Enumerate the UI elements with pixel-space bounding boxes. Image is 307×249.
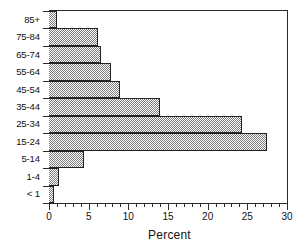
bar-row — [49, 81, 287, 98]
x-axis-tick-minor — [231, 204, 232, 207]
y-axis-tick — [43, 186, 49, 187]
x-axis-tick-major — [168, 204, 169, 210]
x-axis-tick-major — [89, 204, 90, 210]
y-axis-tick-label: 15-24 — [16, 137, 40, 147]
bar-row — [49, 46, 287, 63]
x-axis-tick-minor — [255, 204, 256, 207]
bars-layer — [49, 11, 287, 203]
x-axis-tick-minor — [73, 204, 74, 207]
scan-artifact — [220, 121, 232, 128]
bar-row — [49, 133, 287, 150]
x-axis-tick-minor — [120, 204, 121, 207]
x-axis-title-label: Percent — [148, 228, 191, 242]
bar-row — [49, 28, 287, 45]
x-axis-tick-label: 20 — [196, 211, 220, 222]
bar-1-4 — [49, 168, 59, 185]
x-axis-tick-label: 25 — [235, 211, 259, 222]
x-axis-tick-minor — [200, 204, 201, 207]
bar-row — [49, 168, 287, 185]
y-axis-tick — [43, 116, 49, 117]
bar-35-44 — [49, 98, 160, 115]
x-axis-tick-label: 30 — [275, 211, 299, 222]
y-axis-tick — [43, 63, 49, 64]
y-axis-tick-label: 65-74 — [16, 50, 40, 60]
bar-15-24 — [49, 133, 267, 150]
x-axis-tick-minor — [271, 204, 272, 207]
y-axis-tick-label: 45-54 — [16, 85, 40, 95]
x-axis-tick-minor — [112, 204, 113, 207]
x-axis-tick-minor — [263, 204, 264, 207]
y-axis-tick — [43, 133, 49, 134]
x-axis-tick-minor — [279, 204, 280, 207]
y-axis-tick — [43, 151, 49, 152]
x-axis-tick-minor — [97, 204, 98, 207]
y-axis-tick-label: 5-14 — [21, 154, 40, 164]
y-axis-tick-label: 25-34 — [16, 119, 40, 129]
y-axis-tick-label: 55-64 — [16, 67, 40, 77]
y-axis-tick — [43, 11, 49, 12]
x-axis-tick-major — [247, 204, 248, 210]
bar-65-74 — [49, 46, 101, 63]
y-axis-tick-label: 75-84 — [16, 32, 40, 42]
x-axis-tick-label: 15 — [156, 211, 180, 222]
y-axis-tick-label: 1-4 — [27, 172, 40, 182]
bar-45-54 — [49, 81, 120, 98]
y-axis-tick-label: 85+ — [24, 15, 40, 25]
y-axis-tick-label: 35-44 — [16, 102, 40, 112]
y-axis: 85+75-8465-7455-6445-5435-4425-3415-245-… — [0, 11, 47, 203]
x-axis-tick-major — [128, 204, 129, 210]
y-axis-tick — [43, 98, 49, 99]
bar-5-14 — [49, 151, 84, 168]
x-axis-tick-minor — [136, 204, 137, 207]
bar-55-64 — [49, 63, 111, 80]
x-axis-tick-minor — [57, 204, 58, 207]
x-axis-tick-minor — [216, 204, 217, 207]
bar-row — [49, 186, 287, 203]
y-axis-tick — [43, 46, 49, 47]
x-axis-tick-minor — [192, 204, 193, 207]
x-axis-tick-label: 5 — [77, 211, 101, 222]
x-axis-tick-minor — [65, 204, 66, 207]
x-axis-title: Percent — [0, 228, 307, 242]
bar-row — [49, 11, 287, 28]
x-axis-tick-major — [287, 204, 288, 210]
x-axis-tick-minor — [239, 204, 240, 207]
x-axis-tick-minor — [81, 204, 82, 207]
bar-75-84 — [49, 28, 98, 45]
x-axis-tick-label: 0 — [37, 211, 61, 222]
bar-row — [49, 116, 287, 133]
y-axis-tick-label: < 1 — [27, 189, 40, 199]
x-axis-tick-label: 10 — [116, 211, 140, 222]
bar-25-34 — [49, 116, 242, 133]
bar-row — [49, 98, 287, 115]
bar-85 — [49, 11, 57, 28]
x-axis-tick-major — [49, 204, 50, 210]
bar-chart: 85+75-8465-7455-6445-5435-4425-3415-245-… — [0, 0, 307, 249]
y-axis-tick — [43, 28, 49, 29]
bar-row — [49, 151, 287, 168]
bar-row — [49, 63, 287, 80]
x-axis-tick-minor — [224, 204, 225, 207]
x-axis-tick-major — [208, 204, 209, 210]
x-axis-tick-minor — [152, 204, 153, 207]
x-axis-tick-minor — [144, 204, 145, 207]
y-axis-tick — [43, 81, 49, 82]
x-axis-tick-minor — [184, 204, 185, 207]
y-axis-tick — [43, 168, 49, 169]
bar-1 — [49, 186, 54, 203]
x-axis-tick-minor — [176, 204, 177, 207]
x-axis-tick-minor — [105, 204, 106, 207]
x-axis-tick-minor — [160, 204, 161, 207]
